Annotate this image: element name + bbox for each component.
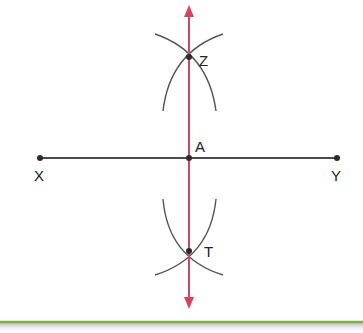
point-z: [186, 54, 192, 60]
arc-z-right: [155, 34, 216, 111]
arrow-up-icon: [184, 5, 194, 17]
label-x: X: [34, 167, 44, 184]
point-x: [37, 155, 43, 161]
ground-shadow: [0, 323, 363, 333]
label-z: Z: [199, 52, 208, 69]
point-y: [334, 155, 340, 161]
diagram-canvas: X Y A Z T: [0, 0, 363, 333]
point-a: [186, 155, 192, 161]
point-t: [186, 248, 192, 254]
arrow-down-icon: [184, 297, 194, 309]
label-a: A: [195, 138, 205, 155]
label-y: Y: [331, 167, 341, 184]
label-t: T: [204, 243, 213, 260]
